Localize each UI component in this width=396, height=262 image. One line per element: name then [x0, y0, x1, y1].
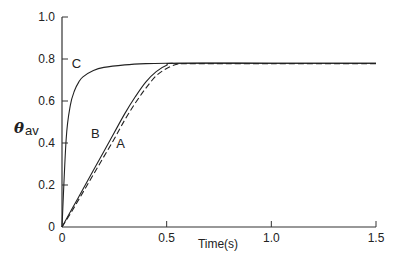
x-tick-label: 1.0	[263, 231, 280, 245]
curve-label-a: A	[116, 136, 125, 151]
curve-labels: CBA	[72, 56, 125, 151]
y-axis-symbol: θ	[14, 119, 24, 137]
y-axis-title: θav	[14, 119, 39, 138]
y-tick-label: 0.6	[38, 94, 55, 108]
series-c-line	[62, 63, 376, 227]
y-tick-label: 1.0	[38, 10, 55, 24]
svg-text:θav: θav	[14, 119, 39, 138]
y-tick-label: 0	[48, 220, 55, 234]
curve-label-b: B	[91, 126, 100, 141]
y-axis-subscript: av	[25, 123, 39, 138]
y-tick-label: 0.2	[38, 178, 55, 192]
y-tick-label: 0.8	[38, 52, 55, 66]
curve-label-c: C	[72, 56, 81, 71]
series-lines	[62, 63, 376, 227]
x-tick-label: 1.5	[368, 231, 385, 245]
chart: 00.20.40.60.81.000.51.01.5 CBA Time(s) θ…	[0, 0, 396, 262]
series-a-line	[62, 64, 376, 227]
y-tick-label: 0.4	[38, 136, 55, 150]
x-tick-label: 0	[59, 231, 66, 245]
axes	[62, 17, 376, 227]
series-b-line	[62, 63, 376, 227]
x-axis-title: Time(s)	[198, 237, 238, 251]
x-tick-label: 0.5	[158, 231, 175, 245]
